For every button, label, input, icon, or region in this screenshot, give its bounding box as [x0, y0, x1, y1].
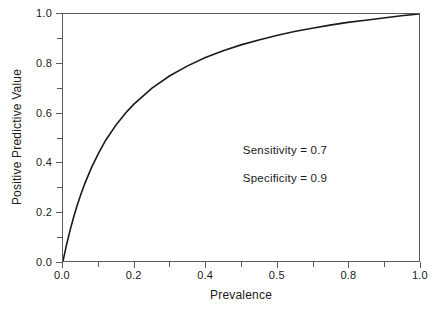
y-tick-label: 0.2: [36, 206, 52, 218]
x-tick-label: 1.0: [412, 269, 428, 281]
y-tick-label: 0.8: [36, 57, 52, 69]
x-tick-label: 0.8: [340, 269, 356, 281]
x-tick-label: 0.2: [126, 269, 142, 281]
y-minor-tick-mark: [57, 88, 62, 89]
y-minor-tick-mark: [57, 38, 62, 39]
x-tick-mark: [420, 262, 421, 268]
y-tick-mark: [56, 212, 62, 213]
figure-container: 0.00.20.40.50.81.0 0.00.20.40.60.81.0 Pr…: [0, 0, 437, 310]
x-minor-tick-mark: [98, 262, 99, 267]
y-axis-title: Positive Predictive Value: [10, 69, 24, 205]
specificity-annotation: Specificity = 0.9: [243, 172, 327, 184]
y-tick-label: 0.6: [36, 107, 52, 119]
x-minor-tick-mark: [313, 262, 314, 267]
x-minor-tick-mark: [169, 262, 170, 267]
x-tick-label: 0.5: [269, 269, 285, 281]
x-tick-mark: [348, 262, 349, 268]
x-tick-label: 0.0: [54, 269, 70, 281]
ppv-curve: [63, 14, 419, 261]
x-tick-mark: [277, 262, 278, 268]
plot-area: [62, 13, 420, 262]
y-tick-mark: [56, 113, 62, 114]
y-tick-mark: [56, 63, 62, 64]
x-minor-tick-mark: [384, 262, 385, 267]
y-minor-tick-mark: [57, 237, 62, 238]
y-tick-label: 0.0: [36, 256, 52, 268]
y-tick-label: 0.4: [36, 156, 52, 168]
x-tick-mark: [205, 262, 206, 268]
y-minor-tick-mark: [57, 187, 62, 188]
x-tick-label: 0.4: [197, 269, 213, 281]
y-tick-label: 1.0: [36, 7, 52, 19]
y-tick-mark: [56, 262, 62, 263]
sensitivity-annotation: Sensitivity = 0.7: [243, 144, 327, 156]
y-minor-tick-mark: [57, 138, 62, 139]
x-axis-title: Prevalence: [210, 288, 272, 302]
y-tick-mark: [56, 162, 62, 163]
x-tick-mark: [62, 262, 63, 268]
x-tick-mark: [134, 262, 135, 268]
x-minor-tick-mark: [241, 262, 242, 267]
y-tick-mark: [56, 13, 62, 14]
